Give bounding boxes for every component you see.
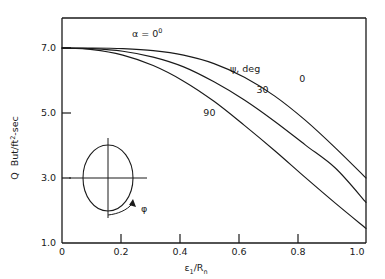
- alpha-annotation-text: α = 0: [132, 28, 158, 39]
- x-axis-tick-labels: 0 0.2 0.4 0.6 0.8 1.0: [59, 246, 365, 257]
- y-axis-ticks: [62, 48, 71, 178]
- x-axis-title: ε1/Rn: [184, 262, 207, 276]
- curve-label-30: 30: [257, 84, 269, 95]
- x-tick-label-0-4: 0.4: [172, 246, 187, 257]
- x-tick-label-0-8: 0.8: [290, 246, 305, 257]
- svg-text:Q But/ft2-sec: Q But/ft2-sec: [9, 116, 21, 180]
- curve-label-0: 0: [299, 73, 305, 84]
- chart-figure: 7.0 5.0 3.0 1.0 0 0.2 0.4 0.6 0.8 1.0 ε1…: [0, 0, 385, 279]
- inset-phi-label: φ: [141, 203, 147, 214]
- legend-title-rest: , deg: [236, 63, 260, 74]
- x-tick-label-1-0: 1.0: [349, 246, 364, 257]
- y-axis-title-units-a: But/ft: [9, 140, 20, 167]
- svg-text:ε1/Rn: ε1/Rn: [184, 262, 207, 276]
- x-tick-label-0: 0: [59, 246, 65, 257]
- inset-phi-arc: [108, 204, 132, 215]
- y-axis-title-q: Q: [9, 172, 20, 179]
- y-axis-tick-labels: 7.0 5.0 3.0 1.0: [41, 42, 56, 248]
- x-axis-title-slash-r: /R: [194, 262, 204, 273]
- curve-label-90: 90: [203, 107, 215, 118]
- alpha-annotation-degree: 0: [158, 27, 162, 35]
- alpha-annotation: α = 00: [132, 27, 162, 39]
- y-axis-title-units-b: -sec: [9, 116, 20, 135]
- body-cross-section-sketch: φ: [69, 138, 147, 218]
- x-axis-title-r-sub: n: [203, 268, 207, 276]
- x-tick-label-0-6: 0.6: [231, 246, 246, 257]
- svg-text:α = 00: α = 00: [132, 27, 162, 39]
- y-tick-label-5-0: 5.0: [41, 107, 56, 118]
- x-tick-label-0-2: 0.2: [113, 246, 128, 257]
- y-tick-label-3-0: 3.0: [41, 172, 56, 183]
- curve-labels: 0 30 90: [203, 73, 305, 118]
- x-axis-ticks: [121, 234, 298, 243]
- y-tick-label-7-0: 7.0: [41, 42, 56, 53]
- chart-svg: 7.0 5.0 3.0 1.0 0 0.2 0.4 0.6 0.8 1.0 ε1…: [0, 0, 385, 279]
- y-tick-label-1-0: 1.0: [41, 237, 56, 248]
- y-axis-title: Q But/ft2-sec: [9, 116, 21, 180]
